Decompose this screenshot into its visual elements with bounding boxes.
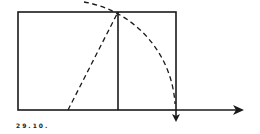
outer-rectangle xyxy=(18,12,176,110)
diagonal-dashed-line xyxy=(68,12,118,110)
golden-rectangle-diagram xyxy=(0,0,260,134)
figure-caption: 29.10. xyxy=(16,122,49,129)
